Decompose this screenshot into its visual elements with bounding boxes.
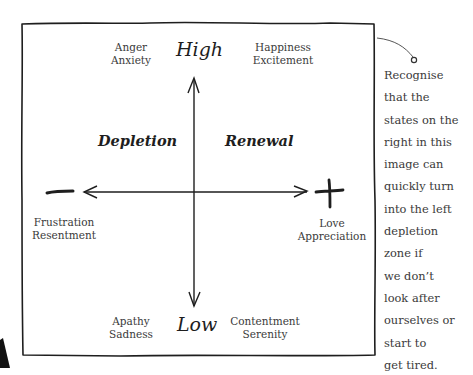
callout-line: depletion	[384, 220, 473, 242]
callout-dot-icon	[411, 57, 416, 62]
callout-line: get tired.	[384, 354, 473, 375]
callout-line: that the	[384, 86, 473, 108]
callout-line: ourselves or	[384, 309, 473, 331]
axis-label-low: Low	[177, 313, 217, 335]
callout-line: quickly turn	[384, 175, 473, 197]
callout-line: look after	[384, 287, 473, 309]
emotions-bottom-right: Contentment Serenity	[229, 315, 301, 341]
emotion-happiness: Happiness	[248, 41, 318, 54]
callout-line: start to	[384, 332, 473, 354]
emotion-serenity: Serenity	[229, 328, 301, 341]
emotion-apathy: Apathy	[106, 315, 156, 328]
callout-line: we don’t	[384, 265, 473, 287]
emotions-top-right: Happiness Excitement	[248, 41, 318, 67]
emotion-contentment: Contentment	[229, 315, 301, 328]
emotion-appreciation: Appreciation	[297, 230, 367, 243]
emotions-top-left: Anger Anxiety	[96, 41, 166, 67]
plus-icon	[316, 180, 343, 207]
corner-brush-stroke	[0, 338, 10, 368]
callout-line: right in this	[384, 131, 473, 153]
callout-line: image can	[384, 153, 473, 175]
callout-line: into the left	[384, 198, 473, 220]
emotions-bottom-left: Apathy Sadness	[106, 315, 156, 341]
emotion-anger: Anger	[96, 41, 166, 54]
emotion-excitement: Excitement	[248, 54, 318, 67]
callout-line: Recognise	[384, 64, 473, 86]
callout-connector	[377, 38, 413, 57]
emotions-left: Frustration Resentment	[28, 216, 100, 242]
zone-label-depletion: Depletion	[98, 132, 177, 149]
minus-icon	[47, 191, 73, 193]
emotion-anxiety: Anxiety	[96, 54, 166, 67]
emotion-resentment: Resentment	[28, 229, 100, 242]
emotion-love: Love	[297, 217, 367, 230]
frame-border	[22, 22, 376, 356]
callout-line: zone if	[384, 242, 473, 264]
zone-label-renewal: Renewal	[225, 132, 293, 149]
emotion-frustration: Frustration	[28, 216, 100, 229]
emotion-sadness: Sadness	[106, 328, 156, 341]
callout-note: Recognise that the states on the right i…	[384, 64, 473, 375]
emotions-right: Love Appreciation	[297, 217, 367, 243]
callout-line: states on the	[384, 109, 473, 131]
axis-label-high: High	[176, 38, 223, 60]
